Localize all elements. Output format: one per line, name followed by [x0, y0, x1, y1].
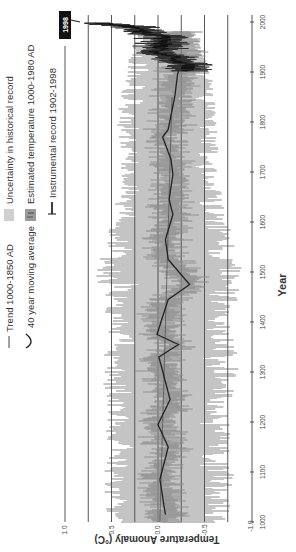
legend-estimated-symbol [25, 209, 36, 221]
y-axis-title: Temperature Anomaly (°C) [94, 534, 219, 545]
x-tick-label: 1200 [259, 414, 266, 429]
x-tick-label: 1700 [259, 164, 266, 179]
temperature-anomaly-chart: 1000110012001300140015001600170018001900… [0, 0, 296, 552]
y-tick-label: -0.5 [201, 524, 208, 536]
x-tick-label: 1500 [259, 264, 266, 279]
annotation-1998-label: 1998 [62, 17, 69, 33]
x-tick-label: 1900 [259, 64, 266, 79]
y-tick-label: 1.0 [61, 525, 68, 534]
year-axis: 1000110012001300140015001600170018001900… [250, 14, 266, 529]
x-tick-label: 1100 [259, 465, 266, 479]
legend: Trend 1000-1850 AD 40 year moving averag… [4, 44, 58, 348]
legend-moving-avg-symbol [26, 334, 31, 348]
chart-canvas: 1000110012001300140015001600170018001900… [0, 0, 296, 552]
legend-moving-avg-label: 40 year moving average [25, 226, 36, 328]
x-tick-label: 1300 [259, 364, 266, 379]
x-axis-title: Year [276, 273, 288, 297]
legend-uncertainty-symbol [4, 209, 14, 221]
legend-estimated-label: Estimated temperature 1000-1980 AD [25, 44, 36, 204]
x-tick-label: 1400 [259, 314, 266, 329]
legend-instrumental-label: Instrumental record 1902-1998 [47, 68, 58, 198]
y-tick-label: -1.0 [247, 520, 254, 532]
x-tick-label: 1600 [259, 214, 266, 229]
legend-uncertainty-label: Uncertainty in historical record [4, 76, 15, 204]
annotation-1998: 1998 [59, 11, 80, 39]
x-tick-label: 2000 [259, 14, 266, 29]
legend-trend-label: Trend 1000-1850 AD [4, 244, 15, 332]
x-tick-label: 1800 [259, 114, 266, 129]
y-tick-label: 0.0 [154, 525, 161, 534]
x-tick-label: 1000 [259, 514, 266, 529]
y-tick-label: 0.5 [108, 525, 115, 534]
